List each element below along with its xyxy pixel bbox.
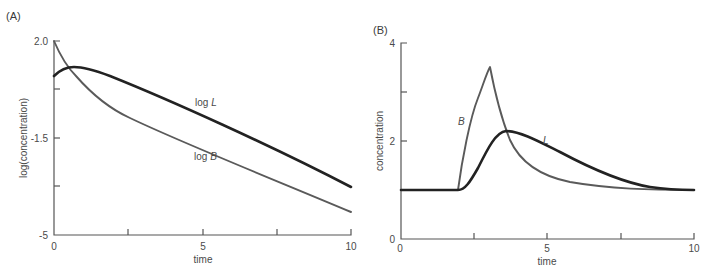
panel-b-xlabel: time (538, 256, 557, 267)
panel-b-ytick-label: 0 (389, 234, 395, 245)
panel-b-label: (B) (373, 24, 388, 36)
series-log-l (54, 67, 351, 187)
panel-a-ylabel: log(concentration) (18, 98, 29, 178)
panel-a-ytick-label: -5 (39, 230, 48, 241)
panel-a-xlabel: time (194, 254, 213, 265)
panel-b-ytick-label: 2 (389, 136, 395, 147)
figure: (A) 2.0 -1.5 -5 0 5 10 time log(concentr… (0, 0, 718, 280)
panel-a-axes (54, 41, 351, 235)
series-label-l: L (543, 135, 549, 146)
panel-b: (B) 4 2 0 0 5 10 time concentration B L (373, 24, 700, 267)
panel-a-xtick-label: 10 (345, 241, 357, 252)
panel-a-xtick-label: 0 (51, 241, 57, 252)
panel-b-ytick-label: 4 (389, 38, 395, 49)
panel-b-xtick-label: 0 (397, 243, 403, 254)
panel-b-xtick-label: 5 (544, 243, 550, 254)
series-label-log-l: log L (195, 97, 217, 108)
series-b (401, 67, 694, 190)
panel-b-xtick-label: 10 (688, 243, 700, 254)
panel-a-ytick-label: -1.5 (31, 133, 49, 144)
panel-a-ytick-label: 2.0 (34, 36, 48, 47)
panel-a-label: (A) (6, 10, 21, 22)
series-label-b: B (458, 116, 465, 127)
panel-b-ylabel: concentration (374, 111, 385, 171)
series-log-b (54, 41, 351, 212)
panel-a-xtick-label: 5 (200, 241, 206, 252)
series-label-log-b: log B (194, 151, 217, 162)
panel-a: (A) 2.0 -1.5 -5 0 5 10 time log(concentr… (6, 10, 357, 265)
